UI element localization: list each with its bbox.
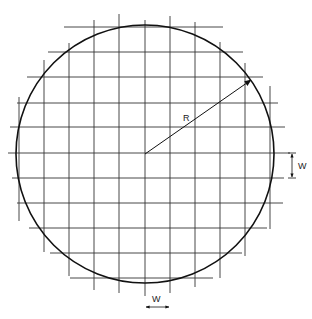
grid-vertical-lines [19,14,270,296]
horizontal-pitch-dimension: W [146,294,169,307]
radius-arrow [145,80,251,154]
vertical-pitch-label: W [298,161,307,171]
horizontal-pitch-label: W [152,294,161,304]
grid-horizontal-lines [8,27,290,278]
radius-label: R [183,113,190,123]
wafer-grid-diagram: R W W [0,0,312,319]
vertical-pitch-dimension: W [288,153,307,178]
